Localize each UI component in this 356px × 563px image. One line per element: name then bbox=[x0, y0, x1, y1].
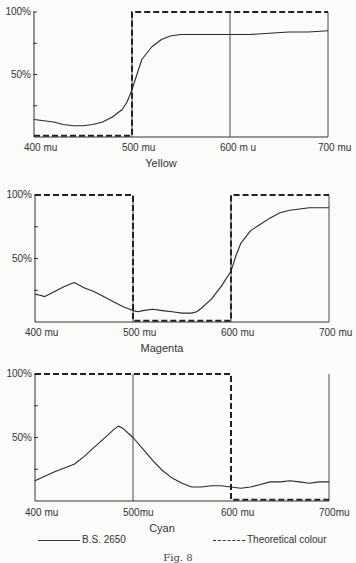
measured-curve bbox=[35, 426, 329, 488]
theoretical-colour-line bbox=[34, 12, 328, 136]
solid-line-swatch-icon bbox=[38, 540, 80, 541]
x-tick-label: 600 mu bbox=[221, 507, 254, 518]
y-tick-label: 50% bbox=[12, 253, 32, 264]
chart-title: Yellow bbox=[145, 157, 176, 169]
chart-yellow: 50%100%400 mu500 mu600 m u700 muYellow bbox=[5, 6, 351, 169]
x-tick-label: 500mu bbox=[123, 507, 154, 518]
x-tick-label: 600 m u bbox=[220, 142, 256, 153]
x-tick-label: 400 mu bbox=[24, 142, 57, 153]
x-tick-label: 400 mu bbox=[25, 507, 58, 518]
x-tick-label: 500 mu bbox=[123, 327, 156, 338]
chart-title: Cyan bbox=[149, 522, 175, 534]
x-tick-label: 400 mu bbox=[25, 327, 58, 338]
dashed-line-swatch-icon bbox=[213, 540, 245, 541]
measured-curve bbox=[34, 31, 328, 126]
chart-cyan: 50%100%400 mu500mu600 mu700muCyan bbox=[6, 368, 349, 534]
theoretical-colour-line bbox=[35, 195, 329, 321]
legend-measured: B.S. 2650 bbox=[38, 534, 126, 545]
y-tick-label: 100% bbox=[6, 368, 32, 379]
measured-curve bbox=[35, 208, 329, 313]
x-tick-label: 700mu bbox=[319, 507, 350, 518]
figure-caption: Fig. 8 bbox=[0, 552, 356, 563]
x-tick-label: 700 mu bbox=[319, 327, 352, 338]
legend-measured-label: B.S. 2650 bbox=[82, 534, 126, 545]
legend-theoretical: Theoretical colour bbox=[213, 534, 326, 545]
x-tick-label: 700 mu bbox=[318, 142, 351, 153]
y-tick-label: 50% bbox=[11, 69, 31, 80]
chart-magenta: 50%100%400 mu500 mu600 mu700 muMagenta bbox=[6, 189, 352, 354]
y-tick-label: 100% bbox=[5, 6, 31, 17]
chart-title: Magenta bbox=[141, 342, 185, 354]
y-tick-label: 100% bbox=[6, 189, 32, 200]
x-tick-label: 500 mu bbox=[122, 142, 155, 153]
x-tick-label: 600 mu bbox=[221, 327, 254, 338]
legend-theoretical-label: Theoretical colour bbox=[247, 534, 326, 545]
y-tick-label: 50% bbox=[12, 432, 32, 443]
